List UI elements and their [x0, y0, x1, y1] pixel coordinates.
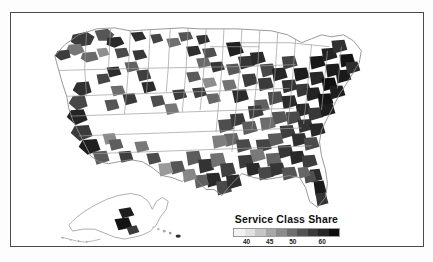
legend-tick-2: 45	[266, 238, 273, 245]
us-county-map-svg[interactable]	[11, 13, 423, 246]
colorbar-segment-1	[234, 229, 245, 236]
colorbar-segment-3	[255, 229, 266, 236]
colorbar-segment-8	[308, 229, 319, 236]
legend-tick-4: 60	[319, 238, 326, 245]
legend-title: Service Class Share	[219, 213, 354, 225]
legend-tick-1: 40	[243, 238, 250, 245]
legend-colorbar	[233, 228, 340, 237]
legend-tick-3: 50	[289, 238, 296, 245]
colorbar-segment-6	[287, 229, 298, 236]
map-legend: Service Class Share 40 45 50 60	[219, 213, 354, 255]
choropleth-map[interactable]	[11, 13, 423, 246]
colorbar-segment-7	[297, 229, 308, 236]
figure-container: Service Class Share 40 45 50 60	[0, 0, 433, 262]
legend-tick-labels: 40 45 50 60	[234, 238, 339, 250]
colorbar-segment-4	[266, 229, 277, 236]
map-frame: Service Class Share 40 45 50 60	[10, 12, 424, 247]
colorbar-segment-5	[276, 229, 287, 236]
colorbar-segment-10	[329, 229, 340, 236]
colorbar-segment-9	[318, 229, 329, 236]
colorbar-segment-2	[245, 229, 256, 236]
